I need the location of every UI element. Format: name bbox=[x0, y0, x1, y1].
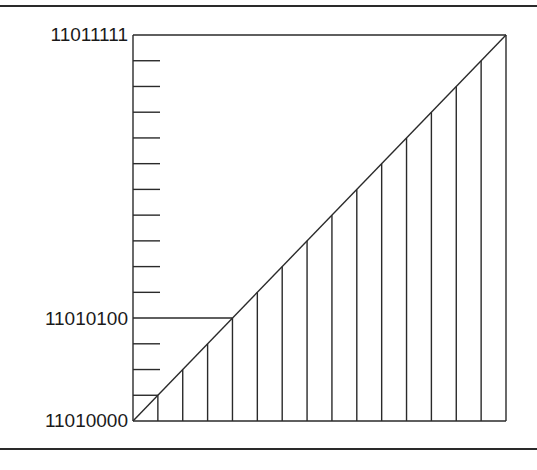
staircase-diagram bbox=[0, 0, 537, 470]
diagonal-line bbox=[133, 35, 506, 421]
